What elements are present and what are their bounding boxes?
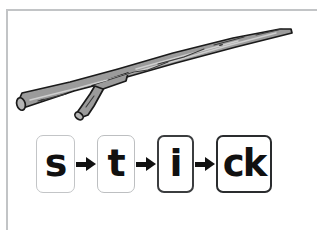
arrow-head [86,157,96,171]
arrow-right-icon-2 [135,157,157,171]
grapheme-box-t[interactable]: t [97,135,135,193]
grapheme-sequence: s t i ck [36,134,294,194]
card-frame-top-border [6,9,317,11]
arrow-right-icon-1 [75,157,97,171]
grapheme-label: i [169,144,181,184]
grapheme-box-s[interactable]: s [36,135,75,193]
grapheme-label: s [45,144,67,184]
arrow-head [205,157,215,171]
arrow-right-icon-3 [194,157,216,171]
grapheme-box-ck[interactable]: ck [216,135,272,193]
grapheme-label: ck [223,145,266,184]
phonics-card: s t i ck [0,0,317,230]
grapheme-box-i[interactable]: i [157,135,194,193]
stick-illustration [8,12,308,122]
arrow-head [146,157,156,171]
grapheme-label: t [107,144,124,184]
